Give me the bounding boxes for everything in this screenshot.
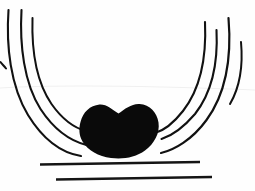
figure-canvas	[0, 0, 255, 191]
figure-svg	[0, 0, 255, 191]
